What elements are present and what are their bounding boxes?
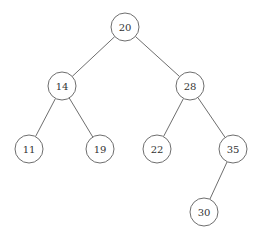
node-label: 19 bbox=[94, 144, 107, 155]
edge-n20-n28 bbox=[135, 36, 179, 76]
edge-n35-n30 bbox=[210, 162, 227, 200]
node-label: 22 bbox=[151, 144, 164, 155]
tree-node-28: 28 bbox=[176, 72, 204, 100]
edge-n14-n11 bbox=[36, 98, 56, 136]
tree-node-20: 20 bbox=[111, 13, 139, 41]
edge-n20-n14 bbox=[72, 37, 115, 77]
tree-node-35: 35 bbox=[219, 135, 247, 163]
tree-node-30: 30 bbox=[190, 198, 218, 226]
node-label: 20 bbox=[119, 22, 132, 33]
edge-n28-n22 bbox=[164, 98, 184, 136]
tree-node-19: 19 bbox=[86, 135, 114, 163]
node-label: 14 bbox=[56, 81, 69, 92]
node-label: 35 bbox=[227, 144, 240, 155]
edge-n28-n35 bbox=[198, 98, 225, 138]
tree-node-14: 14 bbox=[48, 72, 76, 100]
tree-edges bbox=[36, 36, 228, 199]
edge-n14-n19 bbox=[69, 98, 93, 137]
binary-tree-diagram: 2014281119223530 bbox=[0, 0, 259, 240]
tree-node-22: 22 bbox=[143, 135, 171, 163]
node-label: 11 bbox=[23, 144, 36, 155]
node-label: 28 bbox=[184, 81, 197, 92]
tree-node-11: 11 bbox=[15, 135, 43, 163]
node-label: 30 bbox=[198, 207, 211, 218]
